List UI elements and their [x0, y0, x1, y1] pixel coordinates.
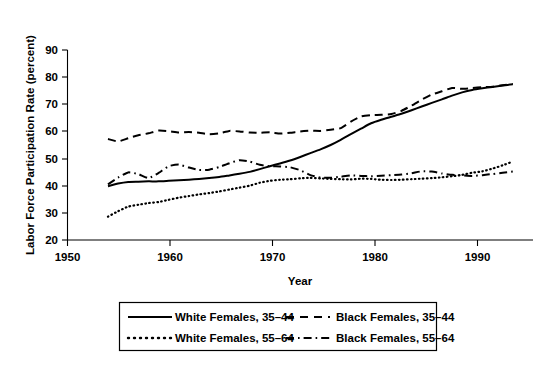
y-tick-label: 50 [45, 153, 58, 165]
y-tick-label: 40 [45, 180, 58, 192]
y-tick-label: 30 [45, 207, 58, 219]
x-tick-label: 1970 [260, 251, 286, 263]
x-axis-ticks [68, 240, 478, 246]
x-axis-title: Year [288, 275, 313, 287]
y-axis-title: Labor Force Participation Rate (percent) [24, 35, 36, 255]
series-white-females-55-64 [108, 162, 513, 217]
line-chart: 90 80 70 60 50 40 30 20 1950 1960 1970 1… [0, 0, 555, 374]
y-tick-label: 60 [45, 125, 58, 137]
y-axis-tick-labels: 90 80 70 60 50 40 30 20 [45, 44, 58, 246]
chart-figure: 90 80 70 60 50 40 30 20 1950 1960 1970 1… [0, 0, 555, 374]
y-tick-label: 90 [45, 44, 58, 56]
legend-label-white-55-64: White Females, 55–64 [175, 332, 294, 344]
x-tick-label: 1980 [362, 251, 388, 263]
y-tick-label: 20 [45, 234, 58, 246]
legend-label-black-55-64: Black Females, 55–64 [336, 332, 455, 344]
x-tick-label: 1990 [465, 251, 491, 263]
x-tick-label: 1960 [157, 251, 183, 263]
series-group [108, 84, 513, 217]
legend-label-white-35-44: White Females, 35–44 [175, 311, 294, 323]
legend-label-black-35-44: Black Females, 35–44 [336, 311, 455, 323]
y-tick-label: 70 [45, 98, 58, 110]
x-axis-tick-labels: 1950 1960 1970 1980 1990 [55, 251, 491, 263]
series-black-females-35-44 [108, 84, 513, 142]
chart-legend: White Females, 35–44 Black Females, 35–4… [120, 303, 455, 351]
y-axis-ticks [62, 50, 68, 240]
series-white-females-35-44 [108, 84, 513, 186]
y-tick-label: 80 [45, 71, 58, 83]
x-tick-label: 1950 [55, 251, 81, 263]
